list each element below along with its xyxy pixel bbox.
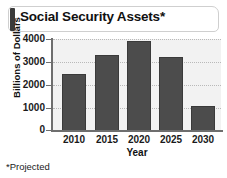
plot-area xyxy=(53,39,221,131)
x-tick-label-group: 2010 2015 2020 2025 2030 xyxy=(53,134,221,147)
y-tick-label-0: 0 xyxy=(12,125,45,135)
y-tick-mark xyxy=(46,130,52,131)
y-tick-mark xyxy=(46,39,52,40)
bar-2010[interactable] xyxy=(62,74,86,132)
gridline xyxy=(53,39,221,40)
bar-2020[interactable] xyxy=(127,41,151,131)
x-tick-label-2030: 2030 xyxy=(180,134,226,145)
x-axis-title: Year xyxy=(53,147,221,158)
bar-2015[interactable] xyxy=(95,55,119,131)
bar-2030[interactable] xyxy=(191,106,215,131)
y-axis-title: Billions of Dollars xyxy=(11,13,22,103)
y-tick-mark xyxy=(46,62,52,63)
y-tick-label-1000: 1000 xyxy=(12,103,45,113)
y-tick-mark xyxy=(46,85,52,86)
footnote: *Projected xyxy=(6,161,50,172)
bar-2025[interactable] xyxy=(159,57,183,131)
x-axis-line xyxy=(51,130,223,132)
y-tick-mark xyxy=(46,108,52,109)
